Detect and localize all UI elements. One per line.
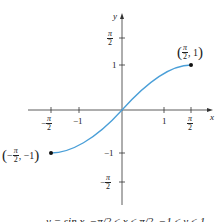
- y-axis-label: y: [113, 12, 117, 21]
- x-tick-1: 1: [162, 117, 167, 126]
- endpoint-top: [189, 63, 193, 67]
- endpoint-bottom: [49, 151, 53, 155]
- y-axis-arrow-icon: [120, 13, 124, 19]
- y-tick-pi-half: π2: [107, 30, 113, 47]
- x-tick-neg-pi-half: −π2: [41, 115, 52, 132]
- x-axis-label: x: [210, 113, 214, 122]
- y-tick-1: 1: [112, 61, 117, 70]
- sine-curve: [51, 65, 191, 153]
- y-tick-neg-pi-half: −π2: [100, 174, 111, 191]
- x-tick-neg1: −1: [73, 117, 83, 126]
- x-tick-pi-half: π2: [187, 115, 193, 132]
- figure-caption: y = sin x, −π/2 ≤ x ≤ π/2, −1 ≤ y ≤ 1: [46, 215, 205, 222]
- y-tick-neg1: −1: [104, 149, 114, 158]
- endpoint-bottom-label: (−π2, −1): [2, 147, 39, 164]
- endpoint-top-label: (π2, 1): [177, 44, 203, 61]
